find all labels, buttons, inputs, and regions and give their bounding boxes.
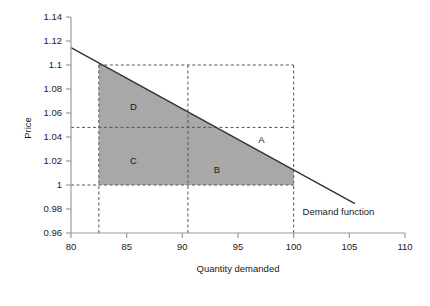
chart-svg: 0.96 0.98 1 1.02 1.04 1.06 1.08 1.1 1.12… bbox=[0, 0, 430, 306]
y-tick-label-3: 1.02 bbox=[44, 155, 63, 166]
y-tick-label-7: 1.1 bbox=[49, 59, 62, 70]
y-tick-label-1: 0.98 bbox=[44, 203, 63, 214]
x-tick-label-4: 100 bbox=[286, 241, 302, 252]
y-tick-label-6: 1.08 bbox=[44, 83, 63, 94]
y-tick-label-4: 1.04 bbox=[44, 131, 63, 142]
demand-function-label: Demand function bbox=[303, 206, 375, 217]
y-tick-label-0: 0.96 bbox=[44, 227, 63, 238]
x-tick-label-2: 90 bbox=[177, 241, 188, 252]
region-label-b: B bbox=[214, 164, 220, 175]
y-tick-label-8: 1.12 bbox=[44, 35, 63, 46]
y-axis-title: Price bbox=[22, 117, 33, 139]
region-label-a: A bbox=[258, 134, 265, 145]
x-tick-label-3: 95 bbox=[233, 241, 244, 252]
y-tick-label-2: 1 bbox=[57, 179, 62, 190]
demand-function-chart: 0.96 0.98 1 1.02 1.04 1.06 1.08 1.1 1.12… bbox=[0, 0, 430, 306]
y-tick-label-9: 1.14 bbox=[44, 11, 63, 22]
x-axis-title: Quantity demanded bbox=[197, 263, 280, 274]
x-tick-label-0: 80 bbox=[66, 241, 77, 252]
region-label-c: C bbox=[130, 155, 137, 166]
y-tick-label-5: 1.06 bbox=[44, 107, 63, 118]
region-label-d: D bbox=[130, 101, 137, 112]
x-tick-label-6: 110 bbox=[397, 241, 412, 252]
x-tick-label-1: 85 bbox=[121, 241, 132, 252]
x-axis-ticks bbox=[71, 233, 405, 238]
y-axis-ticks bbox=[66, 17, 71, 233]
x-tick-label-5: 105 bbox=[341, 241, 357, 252]
